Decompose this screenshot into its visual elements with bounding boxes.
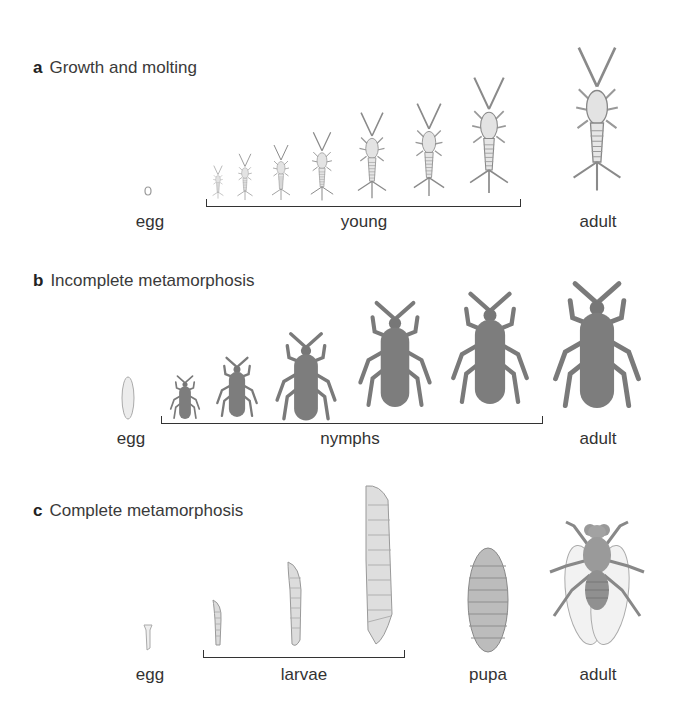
panel-c-adult-label: adult [580,665,617,685]
larva-2 [288,562,301,645]
silverfish-egg [145,187,151,195]
panel-b-title: bIncomplete metamorphosis [33,271,254,291]
panel-b-letter: b [33,271,43,290]
larvae-bracket [203,650,405,658]
panel-a-adult-label: adult [580,212,617,232]
panel-b-heading: Incomplete metamorphosis [50,271,254,290]
panel-c-egg-label: egg [136,665,164,685]
larva-1 [213,600,221,645]
panel-c-larvae-label: larvae [281,665,327,685]
pupa [468,548,508,652]
young-bracket [206,199,521,207]
panel-c-title: cComplete metamorphosis [33,501,243,521]
panel-c-letter: c [33,501,42,520]
panel-b-adult-label: adult [580,429,617,449]
larva-3 [366,486,392,644]
panel-c-heading: Complete metamorphosis [49,501,243,520]
bug-egg [122,377,134,419]
panel-b-nymphs-label: nymphs [320,429,380,449]
panel-b-egg-label: egg [117,429,145,449]
fly-egg [144,625,152,650]
panel-c-pupa-label: pupa [469,665,507,685]
life-cycle-illustrations [0,0,677,707]
panel-a-egg-label: egg [136,212,164,232]
panel-a-young-label: young [341,212,387,232]
adult-fly [550,522,644,647]
nymphs-bracket [161,416,543,424]
